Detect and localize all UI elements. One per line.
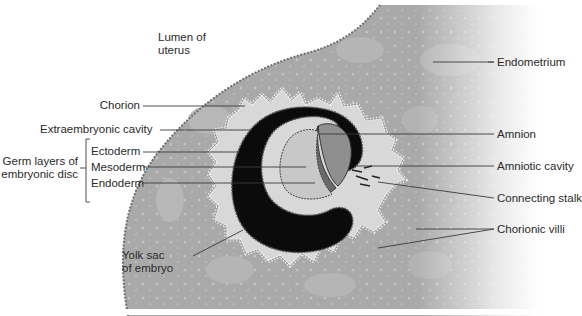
label-endometrium: Endometrium [497,56,565,69]
label-yolk-sac-line2: of embryo [122,262,173,275]
label-yolk-sac-line1: Yolk sac [122,249,173,262]
label-amniotic-cavity: Amniotic cavity [497,160,574,173]
label-endoderm: Endoderm [91,177,144,190]
label-ectoderm: Ectoderm [91,145,140,158]
label-amnion: Amnion [497,128,536,141]
label-germ-layers: Germ layers of embryonic disc [0,155,78,181]
label-germ-layers-line1: Germ layers of [0,155,78,168]
label-chorion: Chorion [82,99,140,112]
label-lumen-line2: uterus [158,44,206,57]
label-connecting-stalk: Connecting stalk [497,192,582,205]
label-yolk-sac: Yolk sac of embryo [122,249,173,275]
label-lumen-line1: Lumen of [158,31,206,44]
label-lumen-of-uterus: Lumen of uterus [158,31,206,57]
label-extraembryonic-cavity: Extraembryonic cavity [40,123,152,136]
label-germ-layers-line2: embryonic disc [0,168,78,181]
label-chorionic-villi: Chorionic villi [497,223,565,236]
label-mesoderm: Mesoderm [91,161,145,174]
